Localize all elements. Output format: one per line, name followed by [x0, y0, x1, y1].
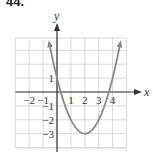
y-tick-label: −2 — [42, 114, 54, 126]
curve-arrow-icon — [117, 40, 123, 47]
x-tick-label: −2 — [23, 94, 35, 106]
x-tick-label: 1 — [68, 94, 74, 106]
parabola-chart: −2−112341−1−2−3 x y — [0, 0, 153, 161]
y-tick-label: −3 — [42, 128, 54, 140]
x-tick-label: 2 — [82, 94, 88, 106]
y-axis-arrow-icon — [54, 23, 60, 31]
y-tick-label: −1 — [42, 100, 54, 112]
grid — [15, 38, 126, 148]
curve-arrow-icon — [47, 40, 53, 47]
x-tick-label: 4 — [110, 94, 116, 106]
y-axis-label: y — [53, 9, 60, 23]
y-tick-label: 1 — [49, 72, 55, 84]
x-tick-label: 3 — [96, 94, 102, 106]
x-axis-arrow-icon — [134, 89, 142, 95]
x-axis-label: x — [143, 85, 150, 99]
axes — [15, 23, 142, 152]
